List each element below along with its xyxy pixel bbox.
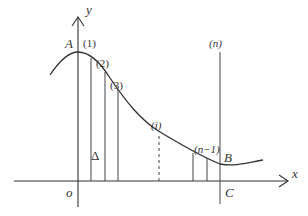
function-curve <box>50 52 263 165</box>
y-axis-label: y <box>84 2 92 17</box>
riemann-sum-diagram: y x o A B C (1) (2) (3) (i) (n−1) (n) Δ <box>0 0 308 216</box>
strip-label-n-minus-1: (n−1) <box>194 143 220 156</box>
strip-label-n: (n) <box>209 37 222 50</box>
point-A-label: A <box>64 36 73 51</box>
strip-label-3: (3) <box>110 79 123 92</box>
strip-label-i: (i) <box>151 119 162 132</box>
origin-label: o <box>66 185 73 200</box>
point-B-label: B <box>224 150 232 165</box>
delta-label: Δ <box>91 148 99 163</box>
strip-label-2: (2) <box>96 57 109 70</box>
point-C-label: C <box>225 185 234 200</box>
x-axis-label: x <box>291 166 298 181</box>
strip-label-1: (1) <box>83 37 96 50</box>
